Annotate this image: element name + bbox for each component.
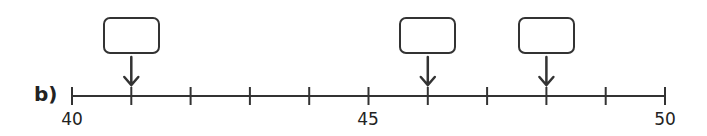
answer-box-1[interactable] [103,17,160,54]
arrow-down-icon [539,57,553,85]
tick-label-50: 50 [654,109,676,129]
answer-box-3[interactable] [518,17,575,54]
arrow-down-icon [421,57,435,85]
arrow-down-icon [124,57,138,85]
tick-label-45: 45 [357,109,379,129]
arrows [124,57,553,85]
answer-box-2[interactable] [399,17,456,54]
tick-label-40: 40 [61,109,83,129]
